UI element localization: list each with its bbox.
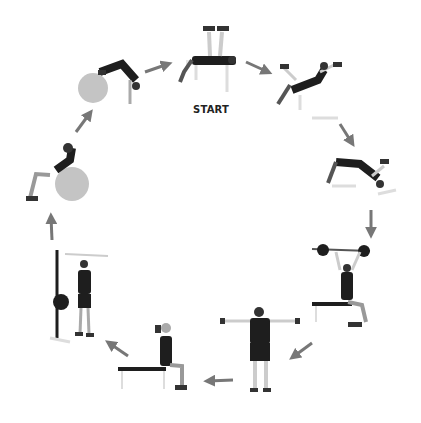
station-ball-pike [78,64,140,104]
circuit-illustration [0,0,421,423]
arrow-icon [293,343,312,357]
arrow-icon [246,62,268,72]
station-decline-fly [328,159,396,194]
arrow-icon [145,64,168,72]
station-triceps-extension [118,323,187,390]
exercise-circuit-diagram: START [0,0,421,423]
station-bench-press [180,26,236,92]
station-overhead-press [312,244,370,327]
arrow-icon [109,343,128,356]
station-incline-fly [278,62,342,118]
arrow-icon [51,217,52,240]
start-label: START [193,104,229,115]
arrow-icon [340,124,352,143]
arrow-icon [208,380,233,381]
arrow-icon [76,113,90,132]
station-ball-crunch [26,143,89,201]
station-cable-curl [50,250,108,342]
